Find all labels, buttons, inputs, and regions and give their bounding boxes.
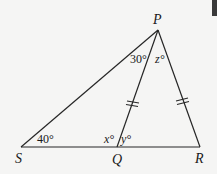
vertex-label-q: Q (112, 152, 122, 167)
angle-label-pqr: y° (120, 132, 131, 146)
corner-scrollbar-fragment (212, 0, 217, 16)
angle-label-psq: 40° (37, 132, 54, 146)
triangle-figure: P S Q R 30° z° 40° x° y° (0, 0, 217, 174)
angle-label-pqs: x° (103, 132, 114, 146)
vertex-label-r: R (194, 151, 204, 166)
angle-label-qpr: z° (154, 52, 165, 66)
vertex-label-s: S (15, 151, 22, 166)
vertex-label-p: P (152, 12, 162, 27)
geometry-diagram: P S Q R 30° z° 40° x° y° (0, 0, 217, 174)
angle-label-spq: 30° (130, 52, 147, 66)
congruence-mark-pr (176, 98, 189, 105)
segment-pr (158, 30, 200, 147)
